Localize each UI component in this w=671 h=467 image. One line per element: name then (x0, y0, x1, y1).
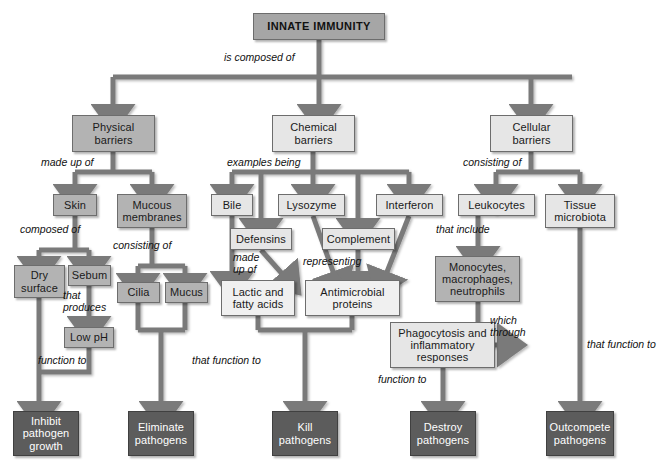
node-label: Eliminate pathogens (129, 421, 193, 446)
edge-label-that-function-to-right: that function to (587, 339, 656, 351)
diagram-canvas: INNATE IMMUNITY Physical barriers Chemic… (0, 0, 671, 467)
node-phagocytosis-inflammatory[interactable]: Phagocytosis and inflammatory responses (390, 322, 495, 368)
node-defensins[interactable]: Defensins (230, 228, 292, 250)
edge-label-that-include: that include (436, 224, 490, 236)
node-physical-barriers[interactable]: Physical barriers (72, 115, 155, 152)
node-kill-pathogens[interactable]: Kill pathogens (272, 411, 338, 456)
node-label: Dry surface (15, 269, 64, 294)
edge-label-that-function-to-mid: that function to (192, 355, 261, 367)
node-cilia[interactable]: Cilia (117, 282, 160, 303)
edge-label-function-to-phago: function to (378, 374, 426, 386)
edge-label-which-through: which through (490, 315, 538, 339)
node-label: Destroy pathogens (411, 421, 475, 446)
node-label: Bile (221, 199, 244, 211)
node-label: Low pH (68, 331, 110, 343)
node-label: Complement (325, 233, 392, 245)
node-interferon[interactable]: Interferon (376, 194, 443, 216)
edge-label-that-produces: that produces (63, 290, 105, 314)
edge-label-consisting-of-cellular: consisting of (463, 157, 521, 169)
node-outcompete-pathogens[interactable]: Outcompete pathogens (546, 411, 614, 456)
node-sebum[interactable]: Sebum (68, 265, 111, 286)
node-label: Phagocytosis and inflammatory responses (391, 327, 494, 364)
node-lysozyme[interactable]: Lysozyme (278, 194, 345, 216)
node-label: Cilia (126, 286, 152, 298)
node-lactic-fatty-acids[interactable]: Lactic and fatty acids (221, 280, 295, 316)
node-label: Defensins (234, 233, 288, 245)
node-label: Inhibit pathogen growth (14, 415, 78, 452)
node-label: Monocytes, macrophages, neutrophils (436, 261, 519, 298)
node-label: Lactic and fatty acids (222, 286, 294, 311)
node-bile[interactable]: Bile (211, 194, 253, 216)
node-label: Chemical barriers (273, 121, 354, 146)
node-destroy-pathogens[interactable]: Destroy pathogens (410, 411, 476, 456)
node-chemical-barriers[interactable]: Chemical barriers (272, 115, 355, 152)
node-low-ph[interactable]: Low pH (64, 327, 114, 348)
node-mucous-membranes[interactable]: Mucous membranes (117, 194, 187, 228)
edge-label-is-composed-of: is composed of (224, 52, 295, 64)
node-label: Tissue microbiota (546, 199, 614, 224)
node-label: Antimicrobial proteins (306, 286, 399, 311)
node-cellular-barriers[interactable]: Cellular barriers (490, 115, 573, 152)
node-label: Outcompete pathogens (547, 421, 613, 446)
edge-label-consisting-of-mucous: consisting of (113, 240, 171, 252)
node-label: Mucus (168, 286, 205, 298)
node-monocytes-macrophages-neutrophils[interactable]: Monocytes, macrophages, neutrophils (435, 256, 520, 302)
node-eliminate-pathogens[interactable]: Eliminate pathogens (128, 411, 194, 456)
edge-label-made-up-of: made up of (41, 157, 94, 169)
node-antimicrobial-proteins[interactable]: Antimicrobial proteins (305, 280, 400, 316)
node-label: Sebum (70, 269, 109, 281)
edge-label-representing: representing (303, 256, 361, 268)
node-label: Leukocytes (466, 199, 527, 211)
node-label: Mucous membranes (118, 199, 186, 224)
edge-label-made-up-of-2: made up of (233, 252, 271, 276)
node-dry-surface[interactable]: Dry surface (14, 265, 65, 298)
node-label: Skin (62, 199, 88, 211)
node-label: Interferon (383, 199, 435, 211)
node-label: Physical barriers (73, 121, 154, 146)
edge-label-composed-of: composed of (20, 224, 80, 236)
node-mucus[interactable]: Mucus (165, 282, 208, 303)
edge-label-function-to-left: function to (38, 355, 86, 367)
node-leukocytes[interactable]: Leukocytes (458, 194, 535, 216)
node-label: Kill pathogens (273, 421, 337, 446)
node-skin[interactable]: Skin (53, 194, 97, 216)
node-label: INNATE IMMUNITY (265, 20, 373, 32)
node-tissue-microbiota[interactable]: Tissue microbiota (545, 194, 615, 228)
node-innate-immunity[interactable]: INNATE IMMUNITY (253, 13, 385, 40)
edge-label-examples-being: examples being (227, 157, 301, 169)
node-label: Cellular barriers (491, 121, 572, 146)
node-label: Lysozyme (285, 199, 339, 211)
node-complement[interactable]: Complement (322, 228, 395, 250)
node-inhibit-pathogen-growth[interactable]: Inhibit pathogen growth (13, 411, 79, 456)
